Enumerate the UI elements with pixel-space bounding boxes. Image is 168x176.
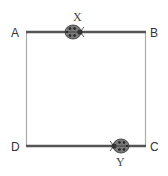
diagram-canvas [0, 0, 168, 176]
ladybug-y-icon [110, 139, 129, 153]
corner-label-d: D [11, 141, 20, 153]
ladybug-x-icon [65, 25, 84, 39]
corner-label-a: A [11, 27, 19, 39]
square-diagram: A B C D X Y [0, 0, 168, 176]
bug-label-x: X [73, 11, 82, 23]
bug-label-y: Y [116, 156, 125, 168]
corner-label-c: C [150, 141, 159, 153]
corner-label-b: B [150, 27, 158, 39]
